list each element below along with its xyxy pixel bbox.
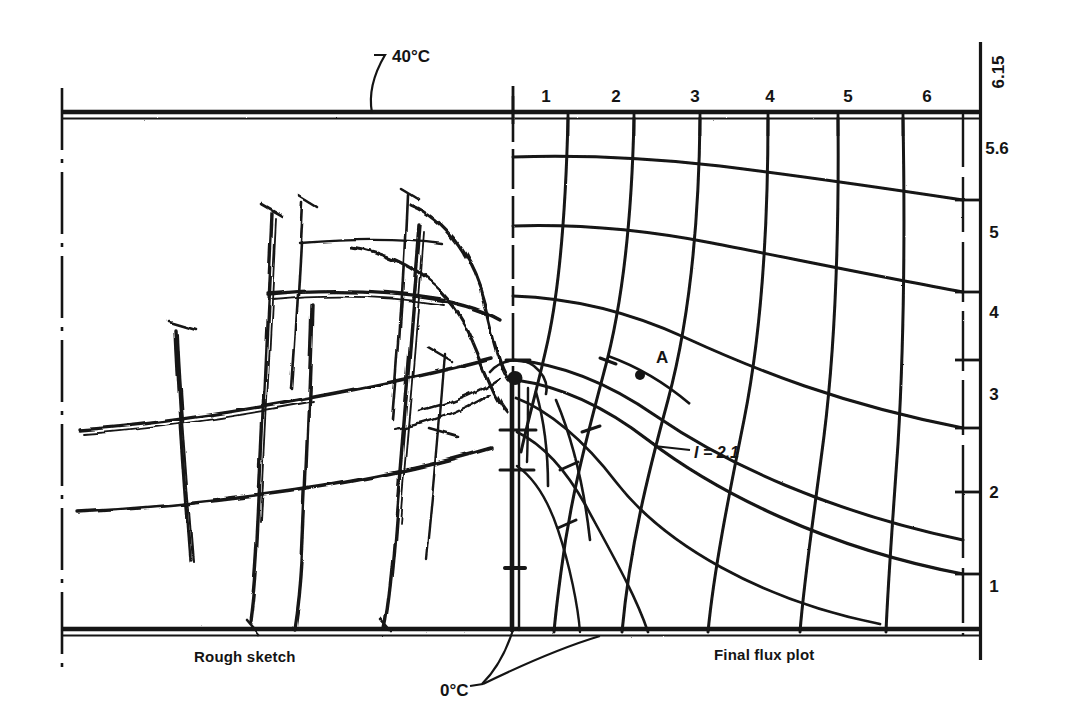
flux-line-tip-c — [527, 388, 528, 462]
right-tick-label-3: 3 — [989, 385, 998, 404]
right-tick-label-1: 1 — [989, 577, 998, 596]
fin-tip-cap — [508, 371, 523, 385]
top-tick-label-4: 4 — [765, 87, 775, 106]
flux-plot-figure: 40°C 0°C Rough sketch Final flux plot A … — [0, 0, 1065, 725]
point-A-dot — [635, 370, 645, 380]
label-isotherm-value: I = 2.1 — [694, 444, 739, 461]
top-tick-label-5: 5 — [843, 87, 852, 106]
right-tick-label-5p6: 5.6 — [985, 139, 1009, 158]
right-tick-label-5: 5 — [989, 223, 998, 242]
top-tick-label-3: 3 — [690, 87, 699, 106]
figure-canvas: 40°C 0°C Rough sketch Final flux plot A … — [0, 0, 1065, 725]
caption-final-flux-plot: Final flux plot — [714, 646, 815, 663]
right-tick-label-4: 4 — [989, 303, 999, 322]
top-tick-label-1: 1 — [541, 87, 550, 106]
label-point-A: A — [656, 348, 668, 367]
label-40c: 40°C — [392, 47, 430, 66]
right-tick-label-2: 2 — [989, 483, 998, 502]
top-tick-label-6: 6 — [922, 87, 931, 106]
top-tick-label-2: 2 — [611, 87, 620, 106]
caption-rough-sketch: Rough sketch — [194, 648, 296, 665]
label-0c: 0°C — [440, 681, 469, 700]
top-end-label-6p15: 6.15 — [989, 55, 1008, 88]
